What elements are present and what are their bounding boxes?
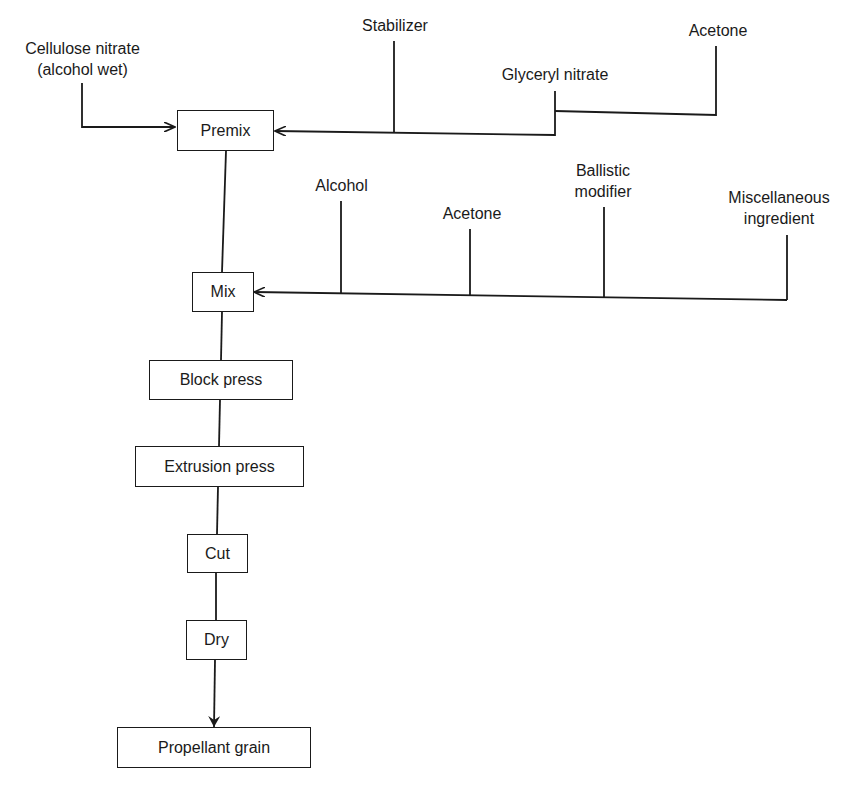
dry-box: Dry (186, 620, 247, 660)
connector-lines (0, 0, 863, 788)
cut-label: Cut (205, 545, 230, 563)
cellulose-nitrate-line (82, 83, 175, 127)
block-press-box: Block press (149, 360, 293, 400)
block-press-to-extrusion-line (219, 400, 220, 446)
stabilizer-label: Stabilizer (350, 15, 440, 36)
acetone-premix-label: Acetone (678, 20, 758, 41)
cellulose-nitrate-label: Cellulose nitrate (alcohol wet) (10, 38, 155, 80)
misc-ingredient-label: Miscellaneous ingredient (720, 187, 838, 229)
glyceryl-nitrate-label: Glyceryl nitrate (485, 64, 625, 85)
cut-box: Cut (187, 534, 248, 573)
premix-box: Premix (177, 110, 274, 151)
propellant-grain-box: Propellant grain (117, 727, 311, 768)
extrusion-to-cut-line (217, 487, 218, 534)
extrusion-press-label: Extrusion press (164, 458, 274, 476)
extrusion-press-box: Extrusion press (135, 446, 304, 487)
premix-to-mix-line (222, 151, 226, 272)
mix-box: Mix (192, 272, 254, 312)
acetone-mix-label: Acetone (432, 203, 512, 224)
ballistic-modifier-label: Ballistic modifier (558, 160, 648, 202)
propellant-grain-label: Propellant grain (158, 739, 270, 757)
mix-label: Mix (211, 283, 236, 301)
alcohol-label: Alcohol (304, 175, 379, 196)
premix-label: Premix (201, 122, 251, 140)
mix-right-feed-line (254, 292, 787, 300)
dry-to-grain-line (214, 660, 215, 727)
dry-label: Dry (204, 631, 229, 649)
block-press-label: Block press (180, 371, 263, 389)
mix-to-block-press-line (221, 312, 222, 360)
premix-right-feed-line (275, 131, 555, 135)
